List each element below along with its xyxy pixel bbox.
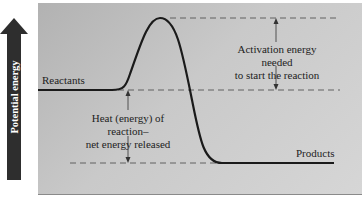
arrow-up-icon [274,18,279,24]
arrow-up-icon [126,90,131,96]
energy-curve-diagram [0,0,364,200]
products-label: Products [296,147,335,160]
arrow-down-icon [274,84,279,90]
arrow-down-icon [126,157,131,163]
heat-of-reaction-label: Heat (energy) of reaction– net energy re… [70,112,186,151]
reactants-label: Reactants [42,74,85,87]
activation-energy-label: Activation energy needed to start the re… [222,43,332,82]
